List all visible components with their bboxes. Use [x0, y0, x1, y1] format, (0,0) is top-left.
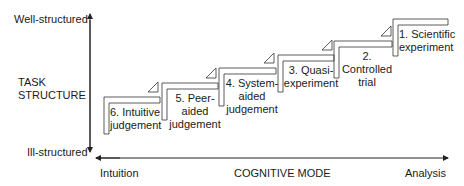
x-axis-right-label: Analysis [405, 167, 446, 179]
step-2-label: 2.Controlledtrial [339, 50, 395, 89]
y-axis-bottom-label: Ill-structured [27, 146, 88, 158]
y-axis-title-line1: TASK [18, 76, 46, 88]
step-4-label: 4. System-aidedjudgement [224, 77, 280, 116]
x-axis-title: COGNITIVE MODE [234, 167, 331, 179]
x-axis-left-label: Intuition [100, 167, 139, 179]
y-axis-title-line2: STRUCTURE [18, 89, 86, 101]
step-1-label: 1. Scientificexperiment [399, 28, 455, 54]
y-axis-top-label: Well-structured [14, 13, 88, 25]
step-5-label: 5. Peer-aidedjudgement [167, 92, 223, 131]
step-6-label: 6. Intuitivejudgement [110, 106, 162, 132]
step-3-label: 3. Quasi-experiment [283, 64, 339, 90]
